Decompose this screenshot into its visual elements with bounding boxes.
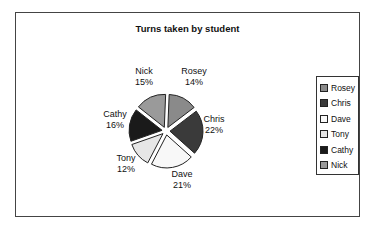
legend-item-rosey: Rosey xyxy=(320,80,358,96)
chart-legend: Rosey Chris Dave Tony Cathy Nick xyxy=(316,76,359,175)
legend-swatch xyxy=(320,84,328,92)
legend-swatch xyxy=(320,115,328,123)
legend-swatch xyxy=(320,161,328,169)
label-cathy: Cathy 16% xyxy=(98,109,132,131)
legend-item-tony: Tony xyxy=(320,127,358,143)
legend-swatch xyxy=(320,130,328,138)
label-chris: Chris 22% xyxy=(198,114,230,136)
label-nick: Nick 15% xyxy=(129,66,159,88)
legend-swatch xyxy=(320,99,328,107)
label-rosey: Rosey 14% xyxy=(177,66,211,88)
legend-item-cathy: Cathy xyxy=(320,142,358,158)
legend-item-nick: Nick xyxy=(320,158,358,174)
legend-item-dave: Dave xyxy=(320,111,358,127)
legend-item-chris: Chris xyxy=(320,96,358,112)
legend-swatch xyxy=(320,146,328,154)
label-dave: Dave 21% xyxy=(166,169,198,191)
chart-frame: Turns taken by student Nick 15% Rosey 14… xyxy=(15,12,360,217)
label-tony: Tony 12% xyxy=(111,153,141,175)
